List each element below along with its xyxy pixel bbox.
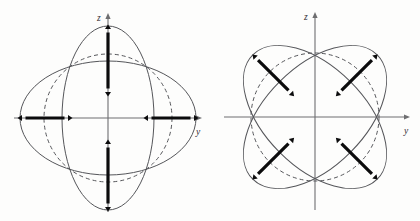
vector-down-head-inner: [105, 140, 111, 145]
vector-lower-left-head-outer: [252, 174, 257, 179]
vector-upper-left-shaft: [258, 60, 288, 90]
vector-upper-left: [252, 54, 294, 96]
vector-lower-right-head-inner: [336, 138, 341, 143]
z-axis-label: z: [96, 13, 101, 23]
vector-upper-left-head-outer: [252, 54, 257, 59]
vector-up: [105, 25, 111, 97]
diagonal-mode-diagram: [217, 12, 412, 215]
vector-upper-right-head-outer: [372, 54, 377, 59]
vector-left-head-inner: [68, 115, 73, 121]
vector-up-head-outer: [105, 25, 111, 30]
vector-upper-right-head-inner: [336, 91, 341, 96]
vector-lower-left: [252, 138, 294, 180]
figure-container: yzyz: [0, 0, 420, 221]
vector-right: [144, 115, 199, 121]
vector-down-head-outer: [105, 207, 111, 212]
vector-up-head-inner: [105, 92, 111, 97]
vector-lower-right-head-outer: [372, 174, 377, 179]
z-axis-label: z: [303, 12, 308, 22]
vector-lower-left-shaft: [258, 144, 288, 174]
y-axis-label: y: [403, 126, 409, 136]
y-axis-label: y: [195, 127, 201, 137]
vector-lower-right: [336, 138, 378, 180]
z-axis-arrowhead: [312, 12, 317, 18]
vector-upper-right-shaft: [342, 60, 372, 90]
vector-down: [105, 140, 111, 212]
y-axis-arrowhead: [404, 114, 410, 119]
axial-mode-diagram: [14, 13, 202, 212]
z-axis-arrowhead: [105, 13, 110, 19]
vector-right-head-inner: [144, 115, 149, 121]
vector-left: [18, 115, 73, 121]
vector-lower-left-head-inner: [289, 138, 294, 143]
vector-lower-right-shaft: [342, 144, 372, 174]
vector-upper-left-head-inner: [289, 91, 294, 96]
vector-upper-right: [336, 54, 378, 96]
diagram-canvas: yzyz: [0, 0, 420, 221]
